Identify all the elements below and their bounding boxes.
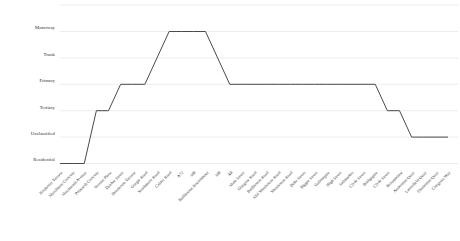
y-axis-tick-label: Motorway [0,25,55,30]
y-axis-tick-label: Primary [0,78,55,83]
y-axis-tick-label: Tertiary [0,104,55,109]
data-series-line [60,32,448,164]
y-axis-tick-label: Trunk [0,51,55,56]
y-axis-tick-label: Residential [0,157,55,162]
y-axis-tick-label: Unclassified [0,130,55,135]
road-classification-chart: ResidentialUnclassifiedTertiaryPrimaryTr… [0,0,460,241]
